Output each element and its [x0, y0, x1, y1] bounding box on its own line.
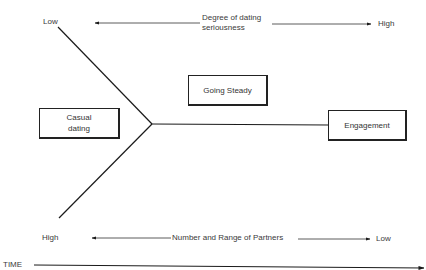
bottom-axis-high-label: High	[42, 233, 58, 243]
casual-dating-line2: dating	[67, 123, 92, 134]
going-steady-box: Going Steady	[188, 75, 268, 106]
casual-dating-box: Casual dating	[39, 108, 120, 139]
going-steady-label: Going Steady	[203, 85, 251, 96]
time-axis-label: TIME	[3, 260, 22, 270]
center-horizontal-line	[152, 124, 329, 125]
casual-dating-line1: Casual	[67, 112, 92, 123]
top-axis-title-line2: seriousness	[202, 23, 261, 33]
bottom-axis-low-label: Low	[376, 234, 391, 244]
engagement-label: Engagement	[344, 120, 389, 131]
top-axis-title: Degree of dating seriousness	[202, 13, 261, 33]
top-axis-high-label: High	[378, 19, 394, 29]
bottom-axis-title: Number and Range of Partners	[172, 233, 283, 243]
top-axis-low-label: Low	[43, 17, 58, 27]
top-axis-title-line1: Degree of dating	[202, 13, 261, 23]
engagement-box: Engagement	[328, 110, 407, 141]
time-axis-line	[34, 265, 424, 268]
